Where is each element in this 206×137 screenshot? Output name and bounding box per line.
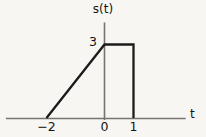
x-tick-label-minus-two: −2	[37, 121, 55, 133]
x-tick-label-zero: 0	[101, 121, 109, 133]
plot-canvas	[0, 0, 206, 137]
x-tick-label-one: 1	[130, 121, 138, 133]
amplitude-value-label: 3	[89, 36, 97, 48]
x-axis-label: t	[190, 108, 195, 120]
signal-waveform-path	[47, 45, 134, 119]
y-axis-label: s(t)	[93, 3, 113, 15]
signal-plot-figure: s(t) 3 −2 0 1 t	[0, 0, 206, 137]
